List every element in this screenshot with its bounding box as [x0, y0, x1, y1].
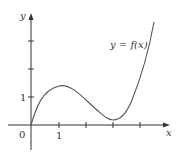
function-graph: y x 0 1 1 y = f(x) [0, 0, 184, 158]
y-axis-arrow-icon [29, 13, 34, 20]
y-axis-label: y [19, 10, 26, 21]
x-tick-label-1: 1 [56, 130, 62, 141]
function-curve [31, 22, 154, 125]
curve-label: y = f(x) [109, 39, 148, 50]
x-axis-label: x [166, 127, 172, 138]
y-tick-label-1: 1 [20, 92, 26, 103]
origin-label: 0 [19, 129, 25, 140]
